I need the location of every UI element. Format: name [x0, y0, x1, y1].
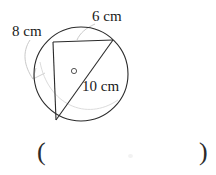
chord-6cm	[53, 40, 113, 42]
label-side-6cm: 6 cm	[92, 9, 122, 24]
figure-page: 8 cm 6 cm 10 cm ( )	[0, 0, 216, 175]
answer-row: ( )	[0, 139, 216, 172]
label-side-8cm: 8 cm	[12, 24, 42, 39]
answer-blank[interactable]	[52, 141, 197, 169]
answer-paren-open: (	[37, 139, 46, 165]
leader-line-6cm	[77, 24, 95, 40]
label-diameter-10cm: 10 cm	[82, 79, 119, 94]
leader-line-8cm	[25, 40, 33, 79]
answer-paren-close: )	[199, 139, 208, 165]
chord-8cm	[53, 42, 56, 120]
paper-smudge	[128, 154, 133, 158]
center-point-icon	[71, 68, 76, 73]
